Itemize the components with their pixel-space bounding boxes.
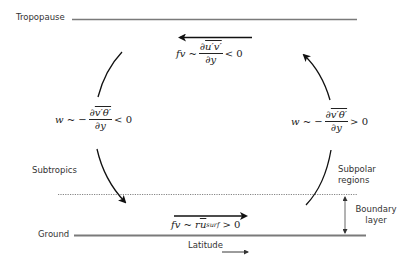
eq-surface-rhs: > 0 — [219, 219, 240, 230]
ground-label: Ground — [38, 229, 69, 240]
right-heat-flux-equation: w ~ − ∂v′θ′ ∂y > 0 — [291, 110, 368, 133]
eq-left-rhs: < 0 — [114, 114, 132, 125]
eq-surface-lhs: fv ~ r — [171, 219, 200, 230]
eq-upper-fraction: ∂u′v′ ∂y — [199, 42, 223, 65]
eq-upper-rhs: < 0 — [225, 48, 243, 59]
subpolar-line2: regions — [338, 175, 376, 186]
circulation-diagram: Tropopause Subtropics Subpolar regions B… — [0, 0, 404, 256]
eq-surface-sub: surf — [206, 221, 219, 229]
boundary-line2: layer — [349, 215, 403, 226]
eq-upper-lhs: fv ~ — [176, 48, 197, 59]
boundary-layer-label: Boundary layer — [349, 204, 403, 226]
eq-right-fraction: ∂v′θ′ ∂y — [325, 110, 348, 133]
boundary-line1: Boundary — [349, 204, 403, 215]
ascending-arrow — [304, 55, 330, 100]
upper-momentum-equation: fv ~ ∂u′v′ ∂y < 0 — [176, 42, 243, 65]
upper-left-arc — [98, 52, 122, 97]
subpolar-regions-label: Subpolar regions — [338, 164, 376, 186]
eq-left-fraction: ∂v′θ′ ∂y — [89, 108, 112, 131]
eq-left-lhs: w ~ − — [55, 114, 87, 125]
latitude-label: Latitude — [188, 240, 223, 251]
eq-right-lhs: w ~ − — [291, 116, 323, 127]
surface-friction-equation: fv ~ rusurf > 0 — [171, 219, 240, 230]
eq-right-rhs: > 0 — [350, 116, 368, 127]
subpolar-line1: Subpolar — [338, 164, 376, 175]
subtropics-label: Subtropics — [32, 165, 77, 176]
left-heat-flux-equation: w ~ − ∂v′θ′ ∂y < 0 — [55, 108, 132, 131]
lower-right-arc — [306, 150, 331, 205]
tropopause-label: Tropopause — [16, 12, 65, 23]
